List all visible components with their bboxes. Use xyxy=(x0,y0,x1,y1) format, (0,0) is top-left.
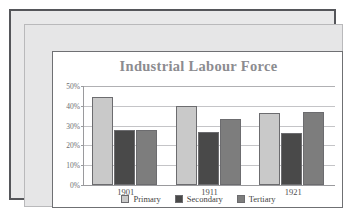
y-tick-mark xyxy=(81,185,84,186)
bar-primary-1921 xyxy=(259,113,280,185)
y-tick-label: 40% xyxy=(66,101,80,110)
legend-item-primary: Primary xyxy=(121,194,160,204)
y-tick-label: 20% xyxy=(66,141,80,150)
bar-group xyxy=(251,86,335,185)
legend-label-tertiary: Tertiary xyxy=(249,194,276,204)
chart-legend: PrimarySecondaryTertiary xyxy=(53,194,344,204)
bar-primary-1901 xyxy=(92,97,113,185)
legend-label-secondary: Secondary xyxy=(187,194,223,204)
bar-tertiary-1911 xyxy=(220,119,241,185)
bar-group xyxy=(84,86,168,185)
plot-area: 0%10%20%30%40%50% 190119111921 xyxy=(83,86,335,186)
image-outer-frame: Industrial Labour Force 0%10%20%30%40%50… xyxy=(9,9,336,200)
chart-card: Industrial Labour Force 0%10%20%30%40%50… xyxy=(52,51,343,208)
bar-groups xyxy=(84,86,335,185)
y-tick-label: 10% xyxy=(66,161,80,170)
bar-tertiary-1921 xyxy=(303,112,324,185)
legend-swatch-secondary xyxy=(175,195,183,203)
legend-item-secondary: Secondary xyxy=(175,194,223,204)
bar-primary-1911 xyxy=(176,106,197,185)
legend-label-primary: Primary xyxy=(133,194,160,204)
bar-secondary-1921 xyxy=(281,133,302,185)
bar-tertiary-1901 xyxy=(136,130,157,185)
legend-item-tertiary: Tertiary xyxy=(237,194,276,204)
legend-swatch-tertiary xyxy=(237,195,245,203)
y-tick-label: 50% xyxy=(66,82,80,91)
bar-group xyxy=(168,86,252,185)
chart-title: Industrial Labour Force xyxy=(53,58,344,75)
legend-swatch-primary xyxy=(121,195,129,203)
screenshot-page: Industrial Labour Force 0%10%20%30%40%50… xyxy=(0,0,345,209)
y-tick-label: 30% xyxy=(66,121,80,130)
bar-secondary-1901 xyxy=(114,130,135,185)
bar-secondary-1911 xyxy=(198,132,219,185)
image-inner-frame: Industrial Labour Force 0%10%20%30%40%50… xyxy=(24,24,343,207)
y-tick-label: 0% xyxy=(70,181,80,190)
